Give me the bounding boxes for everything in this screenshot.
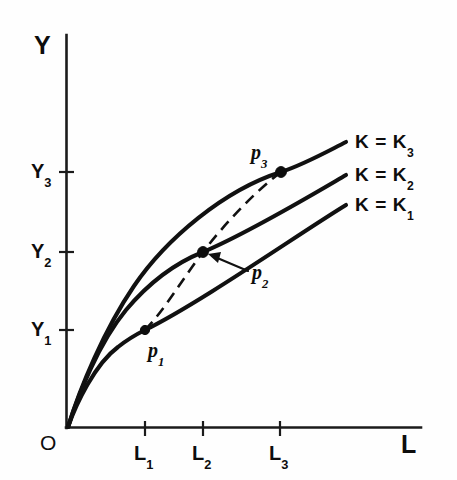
expansion-path-dashed xyxy=(145,172,281,330)
y-tick-label-Y3-sub: 3 xyxy=(44,175,51,190)
production-function-figure: Y L O Y3 Y2 Y1 L1 L2 L3 K = K3 K = K2 K … xyxy=(0,0,457,480)
point-label-p3-sub: 3 xyxy=(261,157,267,171)
production-curves-group xyxy=(68,142,346,427)
curve-label-K3-prefix: K = K xyxy=(355,131,407,152)
x-tick-label-L3: L3 xyxy=(269,443,288,463)
y-tick-label-Y3-base: Y xyxy=(31,160,44,182)
curve-label-K1-prefix: K = K xyxy=(355,194,407,215)
y-tick-label-Y1-base: Y xyxy=(31,318,44,340)
point-label-p3-base: p xyxy=(251,141,261,163)
point-label-p1: p1 xyxy=(148,340,164,360)
chart-canvas xyxy=(0,0,457,480)
y-tick-label-Y2-sub: 2 xyxy=(44,255,51,270)
curve-label-K2-prefix: K = K xyxy=(355,164,407,185)
x-tick-label-L1-base: L xyxy=(134,442,146,464)
x-axis-label: L xyxy=(401,432,417,457)
y-tick-label-Y3: Y3 xyxy=(31,161,51,181)
y-tick-label-Y1: Y1 xyxy=(31,319,51,339)
y-tick-label-Y2-base: Y xyxy=(31,240,44,262)
curve-K3 xyxy=(68,142,346,427)
p2-arrowhead xyxy=(208,252,221,263)
point-label-p2-sub: 2 xyxy=(262,277,268,291)
x-tick-label-L2-base: L xyxy=(192,442,204,464)
curve-K1 xyxy=(68,205,346,427)
p2-leader-line xyxy=(215,257,248,271)
point-label-p1-base: p xyxy=(148,339,158,361)
y-tick-label-Y1-sub: 1 xyxy=(44,333,51,348)
point-label-p2-base: p xyxy=(252,261,262,283)
point-p2 xyxy=(198,247,209,258)
x-tick-label-L1-sub: 1 xyxy=(146,457,153,472)
curve-label-K2: K = K2 xyxy=(355,165,414,184)
p2-leader-annotation xyxy=(208,252,248,271)
x-tick-label-L2: L2 xyxy=(192,443,211,463)
point-p3 xyxy=(276,167,287,178)
curve-label-K3-sub: 3 xyxy=(407,146,414,160)
y-axis-label: Y xyxy=(34,33,51,58)
curve-label-K1-sub: 1 xyxy=(407,209,414,223)
curve-label-K3: K = K3 xyxy=(355,132,414,151)
x-tick-label-L3-sub: 3 xyxy=(281,457,288,472)
x-tick-label-L2-sub: 2 xyxy=(204,457,211,472)
point-label-p1-sub: 1 xyxy=(158,355,164,369)
x-tick-label-L1: L1 xyxy=(134,443,153,463)
origin-label: O xyxy=(40,432,56,453)
x-tick-label-L3-base: L xyxy=(269,442,281,464)
point-label-p3: p3 xyxy=(251,142,267,162)
y-tick-label-Y2: Y2 xyxy=(31,241,51,261)
curve-label-K2-sub: 2 xyxy=(407,179,414,193)
point-label-p2: p2 xyxy=(252,262,268,282)
point-p1 xyxy=(140,325,149,334)
curve-label-K1: K = K1 xyxy=(355,195,414,214)
